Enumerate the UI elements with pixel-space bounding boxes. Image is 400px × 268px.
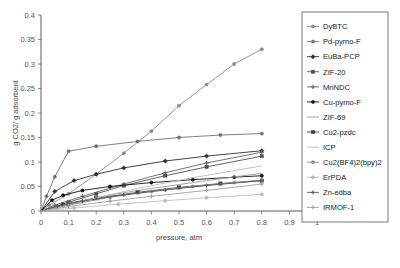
plot-series-group	[41, 48, 264, 211]
legend-item-label: Zn-edba	[323, 188, 352, 197]
legend-item-label: Cu2-pzdc	[323, 128, 356, 137]
series-marker	[191, 178, 194, 181]
series-marker	[122, 166, 126, 170]
legend-swatch-marker	[311, 130, 314, 133]
legend-item-label: IRMOF-1	[323, 203, 354, 212]
y-tick-label: 0.2	[25, 109, 35, 118]
series-marker	[233, 62, 236, 65]
series-marker	[150, 181, 153, 184]
series-marker	[117, 202, 120, 205]
series-marker	[61, 194, 64, 197]
legend-swatch-marker	[311, 25, 314, 28]
series-marker	[53, 175, 56, 178]
x-tick-label: 0.6	[201, 218, 211, 227]
legend-item-label: ErPDA	[323, 173, 347, 182]
x-tick-label: 0	[39, 218, 43, 227]
series-marker	[205, 165, 208, 168]
series-marker	[108, 185, 111, 188]
legend-item-label: ICP	[323, 143, 336, 152]
legend-item-label: EuBa-PCP	[323, 52, 360, 61]
y-tick-label: 0.1	[25, 158, 35, 167]
series-marker	[50, 199, 53, 202]
series-marker	[163, 159, 167, 163]
legend-swatch-marker	[311, 176, 314, 179]
legend: DyBTCPd-pymo-FEuBa-PCPZIF-20MnNDCCu-pymo…	[302, 12, 388, 222]
x-tick-label: 0.1	[63, 218, 73, 227]
series-marker	[150, 129, 153, 132]
legend-item-label: ZIF-20	[323, 68, 345, 77]
x-tick-label: 0.8	[257, 218, 267, 227]
series-marker	[136, 140, 139, 143]
series-marker	[205, 196, 208, 199]
series-marker	[260, 174, 263, 177]
y-tick-label: 0	[31, 207, 35, 216]
x-tick-label: 0.3	[119, 218, 129, 227]
legend-item-label: Cu2(BF4)2(bpy)2	[323, 158, 382, 167]
legend-swatch-marker	[311, 161, 314, 164]
series-marker	[164, 199, 167, 202]
legend-swatch-marker	[311, 40, 314, 43]
y-tick-label: 0.25	[20, 84, 35, 93]
x-tick-label: 0.4	[146, 218, 156, 227]
series-marker	[177, 104, 180, 107]
y-tick-label: 0.35	[20, 35, 35, 44]
series-marker	[260, 132, 263, 135]
y-tick-label: 0.3	[25, 60, 35, 69]
series-marker	[122, 151, 125, 154]
chart-container: 00.050.10.150.20.250.30.350.400.10.20.30…	[0, 0, 400, 268]
x-axis-ticks: 00.10.20.30.40.50.60.70.80.91	[39, 211, 319, 227]
y-tick-label: 0.15	[20, 133, 35, 142]
legend-item-label: ZIF-69	[323, 113, 345, 122]
y-tick-label: 0.4	[25, 11, 35, 20]
axes-group	[41, 15, 317, 211]
x-tick-label: 0.2	[91, 218, 101, 227]
series-marker	[205, 83, 208, 86]
co2-adsorption-line-chart: 00.050.10.150.20.250.30.350.400.10.20.30…	[0, 0, 400, 268]
x-tick-label: 0.9	[284, 218, 294, 227]
legend-item-label: MnNDC	[323, 83, 351, 92]
series-marker	[177, 136, 180, 139]
series-marker	[72, 178, 76, 182]
legend-item-label: Pd-pymo-F	[323, 37, 361, 46]
series-marker	[260, 48, 263, 51]
y-tick-label: 0.05	[20, 182, 35, 191]
legend-item-label: DyBTC	[323, 22, 348, 31]
series-marker	[260, 193, 263, 196]
series-marker	[219, 133, 222, 136]
legend-item-label: Cu-pymo-F	[323, 98, 361, 107]
y-axis-ticks: 00.050.10.150.20.250.30.350.4	[20, 11, 41, 216]
x-tick-label: 0.7	[229, 218, 239, 227]
series-marker	[45, 195, 48, 198]
series-marker	[204, 154, 208, 158]
series-marker	[95, 145, 98, 148]
series-marker	[72, 206, 75, 209]
series-marker	[67, 150, 70, 153]
series-marker	[81, 189, 84, 192]
legend-swatch-marker	[311, 100, 314, 103]
series-marker	[260, 154, 263, 157]
x-axis-title: pressure, atm	[156, 233, 202, 242]
legend-swatch-marker	[311, 70, 314, 73]
series-dybtc	[41, 48, 263, 211]
x-tick-label: 0.5	[174, 218, 184, 227]
y-axis-title: g CO2/ g adsorbent	[11, 79, 20, 145]
